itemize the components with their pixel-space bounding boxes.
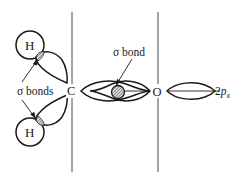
oxygen-label: O: [153, 85, 162, 99]
hydrogen-bottom-label: H: [25, 125, 34, 140]
hydrogen-top-label: H: [25, 38, 34, 53]
sigma-bond-overlap-bottom: [36, 116, 44, 125]
orbital-diagram: H H σ bonds C O σ bond 2px: [0, 0, 243, 179]
sigma-bonds-label: σ bonds: [17, 85, 54, 97]
orbital-2px-label: 2px: [215, 85, 231, 100]
sigma-bond-overlap-co: [112, 86, 125, 99]
carbon-label: C: [67, 84, 75, 98]
sigma-bond-label: σ bond: [113, 46, 145, 58]
